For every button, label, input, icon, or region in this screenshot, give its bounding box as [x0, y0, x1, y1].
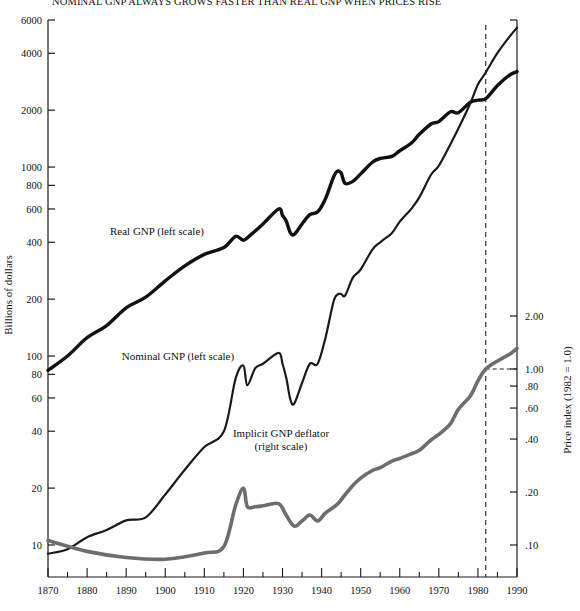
right-axis-title: Price index (1982 = 1.0) — [561, 346, 574, 454]
left-tick-label-80: 80 — [32, 369, 43, 380]
gnp-log-chart: NOMINAL GNP ALWAYS GROWS FASTER THAN REA… — [0, 0, 580, 611]
series-line-real — [48, 72, 517, 371]
left-tick-label-6000: 6000 — [21, 15, 42, 26]
right-tick-label-.40: .40 — [525, 434, 538, 445]
left-tick-label-20: 20 — [32, 483, 43, 494]
series-label-deflator-line2: (right scale) — [255, 440, 308, 453]
left-tick-label-40: 40 — [32, 426, 43, 437]
x-tick-label-1940: 1940 — [311, 585, 332, 596]
left-axis-title: Billions of dollars — [2, 255, 14, 334]
annotation-group: Real GNP (left scale)Nominal GNP (left s… — [110, 225, 329, 453]
right-tick-label-2.00: 2.00 — [525, 311, 543, 322]
series-line-nominal — [48, 28, 517, 554]
x-tick-label-1920: 1920 — [233, 585, 254, 596]
left-tick-label-1000: 1000 — [21, 162, 42, 173]
left-tick-label-60: 60 — [32, 393, 43, 404]
x-tick-label-1900: 1900 — [155, 585, 176, 596]
x-tick-label-1910: 1910 — [194, 585, 215, 596]
right-tick-label-.80: .80 — [525, 381, 538, 392]
x-tick-label-1960: 1960 — [389, 585, 410, 596]
chart-canvas: 6000400020001000800600400200100806040201… — [0, 0, 580, 611]
x-tick-label-1890: 1890 — [116, 585, 137, 596]
series-line-deflator — [48, 348, 517, 559]
left-tick-label-10: 10 — [32, 540, 43, 551]
series-label-real-gnp: Real GNP (left scale) — [110, 225, 204, 238]
x-tick-label-1880: 1880 — [77, 585, 98, 596]
x-tick-label-1950: 1950 — [350, 585, 371, 596]
series-group — [48, 28, 517, 560]
left-tick-label-100: 100 — [26, 351, 42, 362]
axes-group: 6000400020001000800600400200100806040201… — [2, 15, 574, 596]
left-tick-label-600: 600 — [26, 204, 42, 215]
right-tick-label-1.00: 1.00 — [525, 364, 543, 375]
x-tick-label-1930: 1930 — [272, 585, 293, 596]
x-tick-label-1970: 1970 — [428, 585, 449, 596]
left-tick-label-800: 800 — [26, 180, 42, 191]
x-tick-label-1980: 1980 — [467, 585, 488, 596]
series-label-deflator-line1: Implicit GNP deflator — [233, 427, 329, 439]
right-tick-label-.20: .20 — [525, 487, 538, 498]
right-tick-label-.60: .60 — [525, 403, 538, 414]
left-tick-label-4000: 4000 — [21, 48, 42, 59]
x-tick-label-1990: 1990 — [507, 585, 528, 596]
left-tick-label-400: 400 — [26, 237, 42, 248]
series-label-nominal-gnp: Nominal GNP (left scale) — [122, 350, 235, 363]
left-tick-label-2000: 2000 — [21, 105, 42, 116]
right-tick-label-.10: .10 — [525, 540, 538, 551]
x-tick-label-1870: 1870 — [38, 585, 59, 596]
left-tick-label-200: 200 — [26, 294, 42, 305]
